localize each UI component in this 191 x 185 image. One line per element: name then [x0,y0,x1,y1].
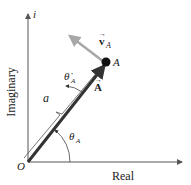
velocity-subscript: A [105,41,111,50]
angle-subscript: A [75,137,81,145]
point-a [102,58,111,67]
angular-rate-arrow [66,86,82,92]
point-a-label: A [112,56,120,68]
angle-arc [55,130,70,162]
magnitude-bracket [24,71,98,158]
imaginary-unit-label: i [33,8,36,20]
angular-rate-subscript: A [70,77,76,85]
imaginary-axis-label: Imaginary [4,67,18,116]
magnitude-label: a [43,91,49,105]
real-axis-label: Real [112,169,135,183]
velocity-overarrow: → [99,30,106,38]
angle-label: θ [69,130,75,142]
origin-label: O [17,160,25,172]
vector-a-overarrow: → [95,76,102,84]
phasor-diagram: i Imaginary Real O A A → v → A a θ̇ A θ … [0,0,191,185]
